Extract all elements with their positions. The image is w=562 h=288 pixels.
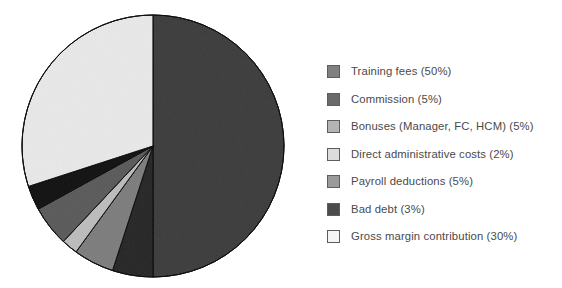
legend-item-bonuses[interactable]: Bonuses (Manager, FC, HCM) (5%): [327, 113, 559, 141]
legend-item-commission[interactable]: Commission (5%): [327, 86, 559, 114]
pie-chart-figure: Training fees (50%) Commission (5%) Bonu…: [0, 0, 562, 288]
legend-swatch-icon-bonuses: [327, 120, 340, 133]
legend-label-payroll-deductions: Payroll deductions (5%): [351, 175, 473, 188]
pie-slices-group: [22, 15, 284, 277]
legend-label-bad-debt: Bad debt (3%): [351, 203, 425, 216]
legend-item-payroll-deductions[interactable]: Payroll deductions (5%): [327, 168, 559, 196]
legend-item-training-fees[interactable]: Training fees (50%): [327, 58, 559, 86]
pie-slice[interactable]: [153, 15, 284, 277]
legend-label-commission: Commission (5%): [351, 93, 442, 106]
legend-swatch-icon-training-fees: [327, 65, 340, 78]
legend-swatch-icon-direct-administrative-costs: [327, 148, 340, 161]
pie-svg: [0, 0, 310, 288]
legend-item-gross-margin-contribution[interactable]: Gross margin contribution (30%): [327, 223, 559, 251]
legend-label-direct-administrative-costs: Direct administrative costs (2%): [351, 148, 514, 161]
legend-label-gross-margin-contribution: Gross margin contribution (30%): [351, 230, 517, 243]
pie-plot-area: [0, 0, 310, 288]
legend-item-direct-administrative-costs[interactable]: Direct administrative costs (2%): [327, 141, 559, 169]
legend-swatch-icon-payroll-deductions: [327, 175, 340, 188]
legend-label-training-fees: Training fees (50%): [351, 65, 451, 78]
legend-swatch-icon-commission: [327, 93, 340, 106]
chart-legend: Training fees (50%) Commission (5%) Bonu…: [327, 58, 559, 251]
legend-swatch-icon-gross-margin-contribution: [327, 230, 340, 243]
legend-item-bad-debt[interactable]: Bad debt (3%): [327, 196, 559, 224]
legend-label-bonuses: Bonuses (Manager, FC, HCM) (5%): [351, 120, 534, 133]
legend-swatch-icon-bad-debt: [327, 203, 340, 216]
